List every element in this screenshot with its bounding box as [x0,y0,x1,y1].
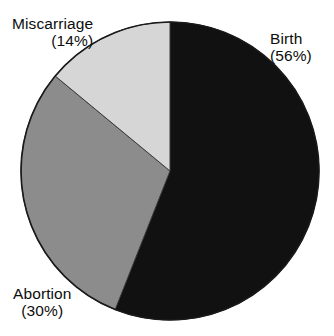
pie-label-abortion-name: Abortion [13,285,72,302]
pie-label-miscarriage-value: (14%) [12,32,93,49]
pie-label-abortion-value: (30%) [13,302,72,319]
pie-label-miscarriage: Miscarriage (14%) [12,15,93,49]
pie-label-birth-value: (56%) [270,47,312,64]
pie-label-birth-name: Birth [270,30,312,47]
pie-label-birth: Birth (56%) [270,30,312,64]
pie-label-abortion: Abortion (30%) [13,285,72,319]
pie-chart-figure: Miscarriage (14%) Birth (56%) Abortion (… [0,0,334,336]
pie-label-miscarriage-name: Miscarriage [12,15,93,32]
